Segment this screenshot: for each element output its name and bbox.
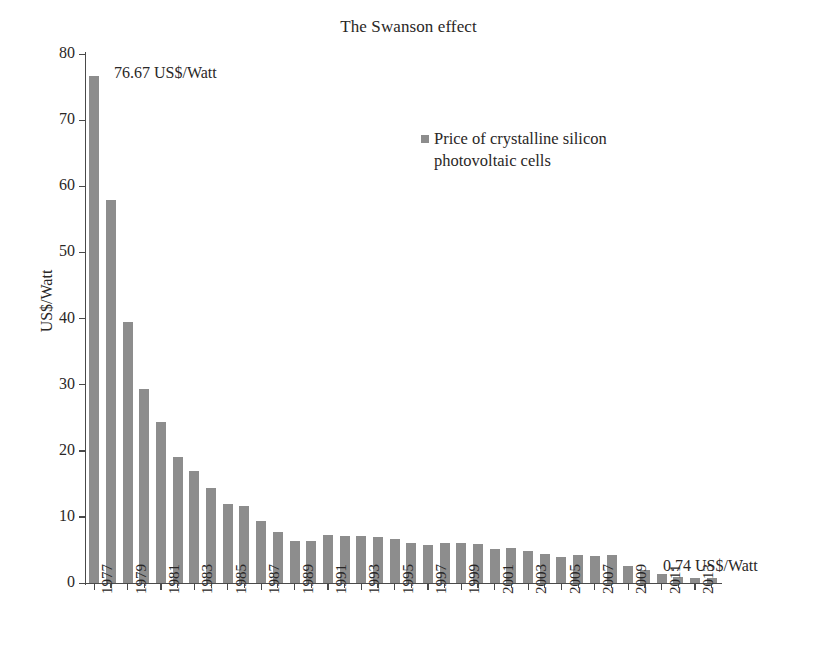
y-axis-tick-label: 30 (35, 376, 75, 392)
chart-legend: Price of crystalline silicon photovoltai… (421, 128, 681, 172)
legend-item: Price of crystalline silicon photovoltai… (421, 128, 681, 172)
x-axis-tick (127, 584, 128, 590)
bar-1997 (423, 545, 433, 583)
x-axis-tick-label: 2011 (668, 565, 683, 594)
x-axis-tick-label: 1977 (100, 564, 115, 594)
bar-1993 (356, 536, 366, 583)
y-axis-tick-label: 60 (35, 177, 75, 193)
legend-swatch-icon (421, 135, 429, 143)
x-axis-minor-tick (244, 584, 245, 588)
x-axis-minor-tick (511, 584, 512, 588)
x-axis-tick-label: 1979 (134, 564, 149, 594)
x-axis-tick (227, 584, 228, 590)
chart-figure: The Swanson effect US$/Watt 010203040506… (0, 0, 817, 661)
x-axis-minor-tick (611, 584, 612, 588)
bar-1977 (89, 76, 99, 583)
bar-2005 (556, 557, 566, 583)
x-axis-tick-label: 2001 (501, 564, 516, 594)
x-axis-tick (494, 584, 495, 590)
bar-2001 (490, 549, 500, 583)
bar-1978 (106, 200, 116, 583)
y-axis-tick (79, 450, 86, 451)
x-axis-tick-label: 1991 (334, 564, 349, 594)
x-axis-tick (160, 584, 161, 590)
y-axis-tick (79, 186, 86, 187)
bar-1983 (189, 471, 199, 583)
y-axis-tick (79, 583, 86, 584)
x-axis-tick-label: 2013 (701, 564, 716, 594)
x-axis-tick-label: 1997 (434, 564, 449, 594)
x-axis-tick-label: 2005 (568, 564, 583, 594)
y-axis-tick (79, 120, 86, 121)
bar-1980 (139, 389, 149, 583)
x-axis-tick-label: 1999 (467, 564, 482, 594)
x-axis-minor-tick (144, 584, 145, 588)
x-axis-minor-tick (444, 584, 445, 588)
x-axis-minor-tick (277, 584, 278, 588)
x-axis-tick-label: 2007 (601, 564, 616, 594)
x-axis-tick (261, 584, 262, 590)
x-axis-minor-tick (711, 584, 712, 588)
y-axis-tick (79, 252, 86, 253)
x-axis-tick (628, 584, 629, 590)
x-axis-tick (594, 584, 595, 590)
x-axis-minor-tick (177, 584, 178, 588)
y-axis-tick-label: 20 (35, 442, 75, 458)
x-axis-minor-tick (411, 584, 412, 588)
bar-2009 (623, 566, 633, 583)
y-axis-tick-label: 40 (35, 310, 75, 326)
x-axis-tick-label: 1989 (301, 564, 316, 594)
x-axis-tick (561, 584, 562, 590)
x-axis-tick-label: 1987 (267, 564, 282, 594)
x-axis-minor-tick (644, 584, 645, 588)
x-axis-tick-label: 2009 (634, 564, 649, 594)
bar-1995 (390, 539, 400, 583)
x-axis-tick-label: 1995 (401, 564, 416, 594)
x-axis-minor-tick (544, 584, 545, 588)
y-axis-tick-labels: 01020304050607080 (30, 0, 75, 661)
x-axis-tick (661, 584, 662, 590)
x-axis-minor-tick (678, 584, 679, 588)
x-axis-tick-label: 1993 (367, 564, 382, 594)
y-axis-tick-label: 80 (35, 45, 75, 61)
x-axis-tick (694, 584, 695, 590)
x-axis-tick (394, 584, 395, 590)
x-axis-minor-tick (110, 584, 111, 588)
x-axis-tick (327, 584, 328, 590)
annotation-first-value: 76.67 US$/Watt (114, 64, 217, 82)
x-axis-tick (361, 584, 362, 590)
x-axis-minor-tick (344, 584, 345, 588)
bar-2013 (690, 578, 700, 583)
bar-2003 (523, 551, 533, 583)
y-axis-tick (79, 384, 86, 385)
x-axis-tick-label: 1981 (167, 564, 182, 594)
bar-1981 (156, 422, 166, 583)
x-axis-tick (461, 584, 462, 590)
chart-title: The Swanson effect (0, 17, 817, 37)
x-axis-tick (528, 584, 529, 590)
bar-1991 (323, 535, 333, 583)
bar-1999 (456, 543, 466, 583)
y-axis-tick-label: 0 (35, 574, 75, 590)
bar-1985 (223, 504, 233, 583)
y-axis-tick-label: 70 (35, 111, 75, 127)
x-axis-minor-tick (377, 584, 378, 588)
x-axis-minor-tick (311, 584, 312, 588)
bar-1979 (123, 322, 133, 583)
x-axis-minor-tick (578, 584, 579, 588)
x-axis-tick-label: 1983 (200, 564, 215, 594)
bar-1987 (256, 521, 266, 583)
x-axis-minor-tick (477, 584, 478, 588)
bar-2011 (657, 574, 667, 583)
x-axis-tick (427, 584, 428, 590)
y-axis-tick (79, 516, 86, 517)
x-axis-tick-label: 2003 (534, 564, 549, 594)
y-axis-tick-label: 50 (35, 243, 75, 259)
bar-2007 (590, 556, 600, 583)
y-axis-tick-label: 10 (35, 508, 75, 524)
x-axis-minor-tick (211, 584, 212, 588)
y-axis-tick (79, 318, 86, 319)
x-axis-tick (94, 584, 95, 590)
x-axis-tick (294, 584, 295, 590)
x-axis-tick-label: 1985 (234, 564, 249, 594)
